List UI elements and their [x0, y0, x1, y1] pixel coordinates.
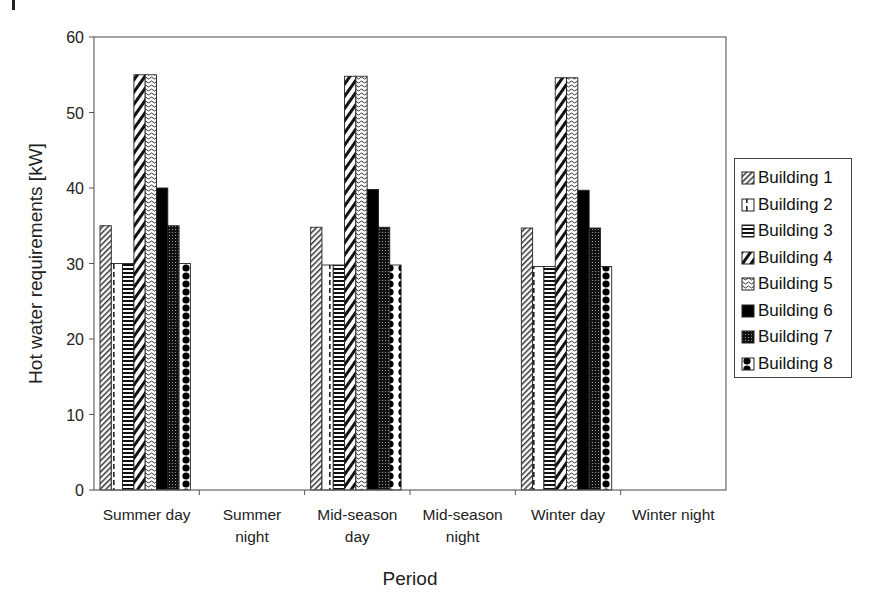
bar	[378, 227, 389, 490]
y-axis-label: Hot water requirements [kW]	[25, 143, 46, 384]
bar	[311, 227, 322, 490]
legend-item: Building 8	[741, 351, 851, 378]
y-tick-label: 20	[66, 331, 84, 348]
legend-swatch	[741, 251, 755, 265]
bar	[600, 267, 611, 490]
x-tick-label: night	[446, 528, 480, 545]
y-tick-label: 50	[66, 105, 84, 122]
bar	[134, 75, 145, 490]
bar	[578, 190, 589, 490]
x-tick-label: day	[345, 528, 370, 545]
legend-swatch	[741, 171, 755, 185]
legend-item: Building 1	[741, 165, 851, 192]
y-tick-label: 0	[75, 482, 84, 499]
legend-item: Building 4	[741, 245, 851, 272]
x-tick-label: night	[235, 528, 269, 545]
y-tick-label: 40	[66, 180, 84, 197]
bar	[145, 75, 156, 490]
x-tick-label: Winter day	[531, 506, 605, 523]
bar	[111, 264, 122, 491]
bar	[179, 264, 190, 491]
bar	[521, 228, 532, 490]
legend-label: Building 3	[758, 221, 833, 241]
x-tick-label: Summer day	[103, 506, 191, 523]
bar	[567, 78, 578, 490]
legend: Building 1Building 2Building 3Building 4…	[734, 158, 852, 378]
legend-label: Building 6	[758, 301, 833, 321]
bar	[333, 265, 344, 490]
legend-label: Building 7	[758, 327, 833, 347]
legend-swatch	[741, 224, 755, 238]
legend-swatch	[741, 198, 755, 212]
x-axis-label: Period	[383, 568, 438, 589]
bar	[322, 265, 333, 490]
y-tick-label: 60	[66, 29, 84, 46]
bar	[356, 76, 367, 490]
legend-label: Building 1	[758, 168, 833, 188]
bar	[123, 264, 134, 491]
legend-label: Building 2	[758, 195, 833, 215]
legend-item: Building 5	[741, 271, 851, 298]
legend-label: Building 8	[758, 354, 833, 374]
x-tick-label: Mid-season	[423, 506, 503, 523]
bar	[533, 267, 544, 490]
bar	[157, 188, 168, 490]
legend-item: Building 2	[741, 192, 851, 219]
x-tick-label: Mid-season	[317, 506, 397, 523]
bar	[555, 78, 566, 490]
legend-swatch	[741, 304, 755, 318]
bar	[168, 226, 179, 490]
bar	[100, 226, 111, 490]
legend-swatch	[741, 330, 755, 344]
plot-area	[100, 75, 612, 490]
bar	[589, 228, 600, 490]
legend-swatch	[741, 357, 755, 371]
bar	[367, 190, 378, 490]
legend-item: Building 6	[741, 298, 851, 325]
legend-label: Building 5	[758, 274, 833, 294]
legend-item: Building 3	[741, 218, 851, 245]
x-tick-label: Winter night	[632, 506, 715, 523]
legend-label: Building 4	[758, 248, 833, 268]
bar	[390, 265, 401, 490]
bar	[544, 267, 555, 490]
legend-item: Building 7	[741, 324, 851, 351]
x-tick-label: Summer	[223, 506, 282, 523]
y-tick-label: 30	[66, 256, 84, 273]
bar	[345, 76, 356, 490]
legend-swatch	[741, 277, 755, 291]
y-tick-label: 10	[66, 407, 84, 424]
